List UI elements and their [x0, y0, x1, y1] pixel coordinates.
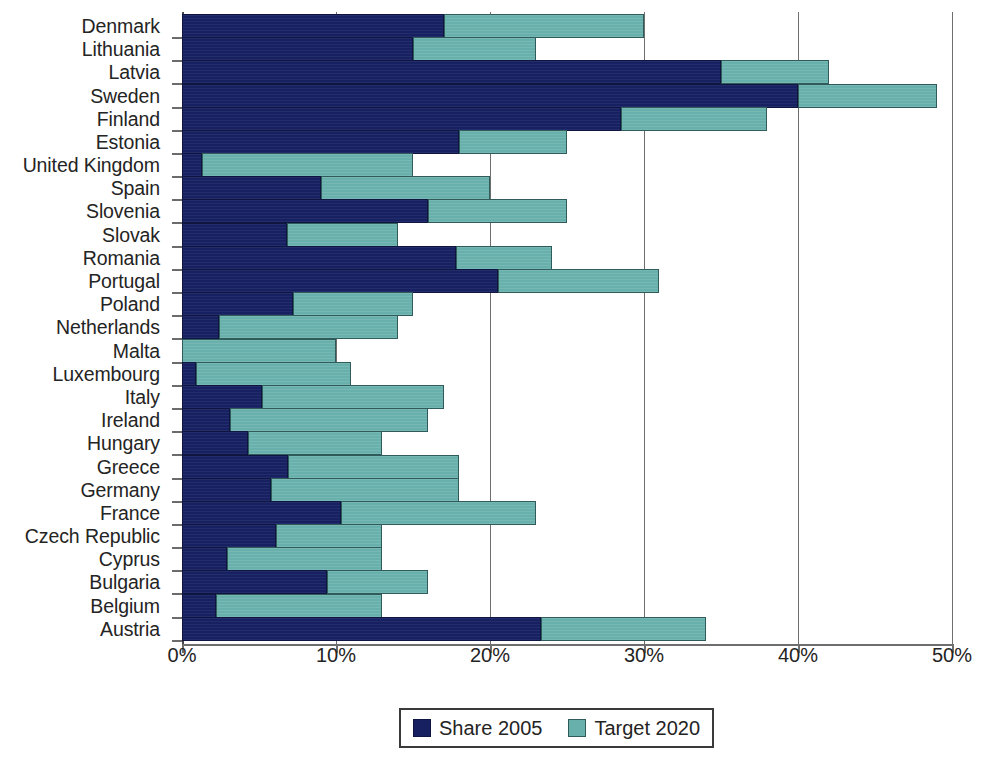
- category-label-lithuania: Lithuania: [82, 37, 160, 61]
- category-label-bulgaria: Bulgaria: [89, 570, 160, 594]
- y-tick-hungary: [172, 454, 182, 456]
- bar-segment-target-2020: [428, 199, 567, 223]
- category-label-sweden: Sweden: [90, 84, 160, 108]
- category-label-malta: Malta: [113, 339, 160, 363]
- bar-segment-target-2020: [271, 478, 459, 502]
- category-label-slovenia: Slovenia: [86, 199, 160, 223]
- bar-segment-target-2020: [287, 223, 398, 247]
- y-tick-czech-republic: [172, 547, 182, 549]
- category-label-ireland: Ireland: [101, 408, 160, 432]
- bar-segment-target-2020: [293, 292, 413, 316]
- bar-segment-share-2005: [182, 547, 227, 571]
- bar-segment-share-2005: [182, 292, 293, 316]
- category-label-germany: Germany: [81, 478, 161, 502]
- bar-segment-target-2020: [216, 594, 382, 618]
- bar-segment-share-2005: [182, 315, 219, 339]
- category-label-poland: Poland: [100, 292, 160, 316]
- bar-segment-target-2020: [227, 547, 383, 571]
- bar-segment-target-2020: [459, 130, 567, 154]
- y-tick-netherlands: [172, 338, 182, 340]
- x-axis-label-50%: 50%: [907, 644, 989, 667]
- bar-segment-target-2020: [288, 455, 459, 479]
- bar-segment-share-2005: [182, 362, 196, 386]
- category-label-netherlands: Netherlands: [56, 315, 160, 339]
- bar-segment-target-2020: [721, 60, 829, 84]
- bar-segment-share-2005: [182, 107, 621, 131]
- bar-segment-target-2020: [798, 84, 937, 108]
- y-tick-latvia: [172, 83, 182, 85]
- category-label-latvia: Latvia: [109, 60, 160, 84]
- y-tick-portugal: [172, 292, 182, 294]
- bar-segment-share-2005: [182, 431, 248, 455]
- category-label-spain: Spain: [111, 176, 160, 200]
- bar-segment-share-2005: [182, 617, 541, 641]
- y-tick-spain: [172, 199, 182, 201]
- legend-swatch-icon: [568, 719, 586, 737]
- y-tick-lithuania: [172, 60, 182, 62]
- category-axis-labels: DenmarkLithuaniaLatviaSwedenFinlandEston…: [0, 14, 168, 640]
- y-tick-united-kingdom: [172, 176, 182, 178]
- category-label-czech-republic: Czech Republic: [25, 524, 160, 548]
- bar-segment-target-2020: [621, 107, 767, 131]
- category-label-finland: Finland: [97, 107, 160, 131]
- y-tick-austria: [172, 640, 182, 642]
- bar-segment-target-2020: [196, 362, 352, 386]
- renewable-energy-share-target-bar-chart: DenmarkLithuaniaLatviaSwedenFinlandEston…: [0, 0, 989, 759]
- y-tick-malta: [172, 362, 182, 364]
- bar-segment-share-2005: [182, 455, 288, 479]
- y-tick-luxembourg: [172, 385, 182, 387]
- y-tick-germany: [172, 501, 182, 503]
- bar-segment-share-2005: [182, 153, 202, 177]
- bar-segment-target-2020: [248, 431, 382, 455]
- category-label-greece: Greece: [97, 455, 160, 479]
- bar-segment-share-2005: [182, 37, 413, 61]
- category-label-luxembourg: Luxembourg: [53, 362, 160, 386]
- y-tick-sweden: [172, 107, 182, 109]
- category-label-belgium: Belgium: [90, 594, 160, 618]
- legend-label: Target 2020: [594, 717, 700, 740]
- category-label-denmark: Denmark: [82, 14, 160, 38]
- bar-segment-target-2020: [276, 524, 382, 548]
- legend-swatch-icon: [413, 719, 431, 737]
- bar-segment-share-2005: [182, 60, 721, 84]
- bar-segment-share-2005: [182, 594, 216, 618]
- bar-segment-target-2020: [541, 617, 706, 641]
- y-tick-slovak: [172, 246, 182, 248]
- category-label-italy: Italy: [125, 385, 160, 409]
- category-label-estonia: Estonia: [96, 130, 160, 154]
- bar-segment-share-2005: [182, 199, 428, 223]
- bar-segment-share-2005: [182, 478, 271, 502]
- bar-segment-target-2020: [202, 153, 413, 177]
- chart-legend: Share 2005Target 2020: [399, 708, 714, 748]
- y-tick-ireland: [172, 431, 182, 433]
- y-tick-estonia: [172, 153, 182, 155]
- x-axis-label-30%: 30%: [599, 644, 689, 667]
- x-axis-label-40%: 40%: [753, 644, 843, 667]
- gridline-50%: [952, 12, 953, 644]
- legend-item-target-2020: Target 2020: [568, 717, 700, 740]
- y-tick-greece: [172, 478, 182, 480]
- category-label-slovak: Slovak: [102, 223, 160, 247]
- bar-segment-target-2020: [230, 408, 429, 432]
- y-tick-poland: [172, 315, 182, 317]
- category-label-portugal: Portugal: [88, 269, 160, 293]
- category-label-cyprus: Cyprus: [99, 547, 160, 571]
- bar-segment-target-2020: [341, 501, 537, 525]
- bar-segment-share-2005: [182, 176, 321, 200]
- bar-segment-share-2005: [182, 501, 341, 525]
- legend-label: Share 2005: [439, 717, 542, 740]
- y-tick-slovenia: [172, 222, 182, 224]
- bar-segment-share-2005: [182, 223, 287, 247]
- bar-segment-share-2005: [182, 130, 459, 154]
- y-tick-belgium: [172, 617, 182, 619]
- x-axis-label-20%: 20%: [445, 644, 535, 667]
- bar-segment-target-2020: [498, 269, 660, 293]
- bar-segment-target-2020: [219, 315, 398, 339]
- y-tick-france: [172, 524, 182, 526]
- bar-segment-target-2020: [262, 385, 444, 409]
- y-tick-italy: [172, 408, 182, 410]
- x-axis-label-10%: 10%: [291, 644, 381, 667]
- bar-segment-share-2005: [182, 524, 276, 548]
- y-tick-romania: [172, 269, 182, 271]
- bar-segment-target-2020: [321, 176, 490, 200]
